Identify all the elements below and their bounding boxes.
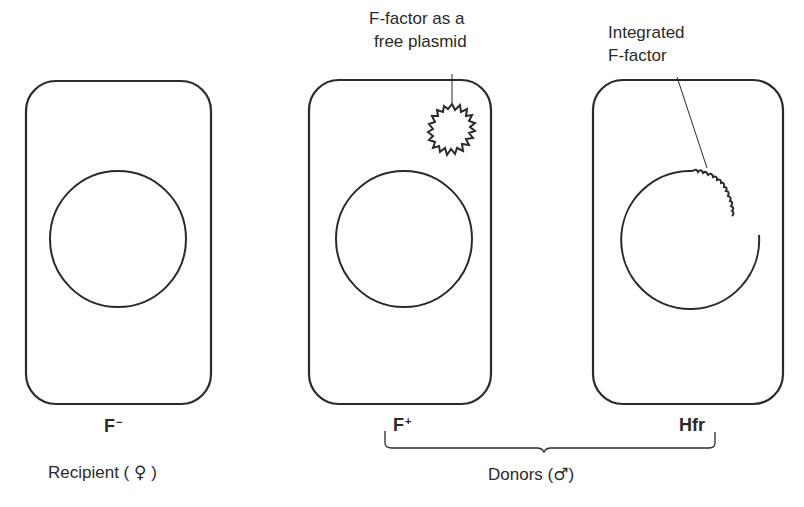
donors-brace [385, 431, 715, 452]
cell-wall [26, 81, 211, 404]
donors-text: Donors ( [488, 465, 553, 484]
male-symbol-icon: ♂ [553, 464, 568, 484]
cell-label-f-plus: F+ [393, 410, 411, 436]
cell-label-superscript: + [405, 415, 411, 427]
cell-hfr [593, 77, 783, 404]
donors-close: ) [568, 465, 574, 484]
plasmid-annotation-line1: F-factor as a [369, 8, 464, 30]
cell-label-f-minus: F− [104, 411, 122, 437]
integrated-f-factor [693, 170, 734, 216]
chromosome [50, 171, 186, 307]
cell-f-minus [26, 81, 211, 404]
recipient-text: Recipient ( [48, 463, 129, 482]
donors-label: Donors (♂) [488, 463, 574, 486]
recipient-label: Recipient ( ♀ ) [48, 461, 157, 484]
female-symbol-icon: ♀ [134, 462, 146, 482]
free-plasmid [428, 104, 475, 155]
plasmid-annotation-line2: free plasmid [374, 31, 467, 53]
chromosome [621, 171, 759, 309]
cell-label-base: F [393, 415, 404, 435]
integrated-annotation-line2: F-factor [608, 45, 667, 67]
cell-label-base: F [104, 416, 115, 436]
cell-f-plus [309, 74, 491, 404]
recipient-close: ) [151, 463, 157, 482]
integrated-annotation-line1: Integrated [608, 22, 685, 44]
cell-label-hfr: Hfr [679, 414, 705, 436]
cell-label-base: Hfr [679, 415, 705, 435]
chromosome [336, 171, 472, 307]
integrated-leader-line [677, 77, 707, 168]
cell-label-superscript: − [116, 416, 122, 428]
